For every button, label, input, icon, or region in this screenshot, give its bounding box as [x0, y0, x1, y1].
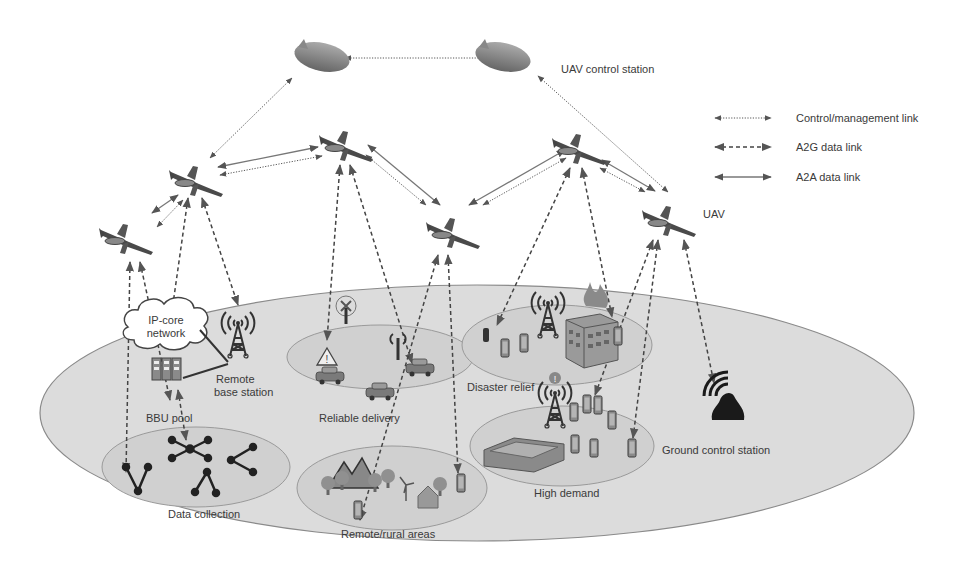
remote-rural-areas-label: Remote/rural areas	[341, 528, 435, 541]
uav-label: UAV	[703, 208, 725, 221]
svg-text:!: !	[554, 374, 557, 384]
uav-icon	[552, 134, 606, 165]
bbu-pool-icon	[152, 358, 181, 380]
handset-icon	[483, 328, 489, 342]
uav-icon	[426, 218, 480, 249]
remote-base-station-line1: Remote	[214, 373, 273, 386]
legend-label: Control/management link	[796, 112, 918, 124]
control-link	[366, 155, 426, 205]
a2g-link	[202, 198, 238, 305]
phone-icon	[354, 501, 362, 519]
a2a-link	[602, 160, 655, 191]
uav-control-station-label: UAV control station	[561, 63, 654, 76]
uav-icon	[169, 166, 223, 197]
a2a-link	[469, 150, 565, 205]
a2a-link	[218, 147, 318, 167]
uav-icon	[319, 131, 373, 162]
a2a-link	[152, 195, 178, 213]
uav-icon	[642, 206, 696, 237]
data-collection-label: Data collection	[168, 508, 240, 521]
alert-icon: !	[549, 372, 561, 384]
high-demand-label: High demand	[534, 487, 599, 500]
legend-control-link: Control/management link	[712, 111, 918, 125]
phone-icon	[628, 439, 636, 457]
legend-a2g-link: A2G data link	[712, 140, 862, 154]
legend-a2a-link: A2A data link	[712, 170, 860, 184]
phone-icon	[457, 474, 465, 492]
svg-text:!: !	[326, 354, 329, 365]
airship-icon	[473, 37, 534, 76]
control-link	[483, 158, 566, 205]
a2g-link-sample-icon	[712, 142, 774, 152]
disaster-relief-label: Disaster relief	[467, 381, 534, 394]
uav-icon	[99, 224, 153, 255]
bbu-pool-label: BBU pool	[146, 412, 192, 425]
phone-icon	[594, 396, 602, 414]
ip-core-line1: IP-core	[147, 314, 186, 327]
remote-base-station-label: Remote base station	[214, 373, 273, 398]
control-link	[210, 78, 292, 158]
remote-base-station-line2: base station	[214, 386, 273, 399]
phone-icon	[590, 439, 598, 457]
ip-core-network-label: IP-core network	[147, 314, 186, 339]
control-link	[157, 200, 183, 227]
a2a-link-sample-icon	[712, 172, 774, 182]
phone-icon	[583, 395, 591, 413]
ground-control-station-label: Ground control station	[662, 444, 770, 457]
a2a-link	[368, 145, 440, 205]
phone-icon	[501, 339, 509, 357]
phone-icon	[570, 403, 578, 421]
legend-label: A2G data link	[796, 141, 862, 153]
uav-network-diagram: ! !	[0, 0, 970, 585]
phone-icon	[571, 435, 579, 453]
control-link	[538, 76, 668, 192]
airship-icon	[292, 37, 353, 76]
zone-reliable-delivery	[287, 325, 473, 389]
control-link	[220, 156, 322, 175]
phone-icon	[608, 411, 616, 429]
legend-label: A2A data link	[796, 171, 860, 183]
reliable-delivery-label: Reliable delivery	[319, 412, 400, 425]
phone-icon	[614, 327, 622, 345]
phone-icon	[520, 334, 528, 352]
ip-core-line2: network	[147, 327, 186, 340]
control-link-sample-icon	[712, 113, 774, 123]
